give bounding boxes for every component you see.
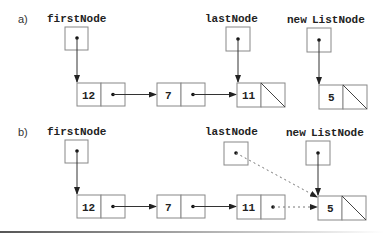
part-b: b) firstNode lastNode new ListNode 12 7: [18, 126, 366, 220]
node-7: 7: [157, 195, 236, 218]
node-11: 11: [237, 195, 317, 219]
part-a: a) firstNode lastNode new ListNode 12 7: [18, 13, 367, 109]
last-node-label: lastNode: [205, 13, 258, 25]
svg-text:11: 11: [242, 202, 256, 214]
new-label-prefix: new: [286, 127, 306, 139]
new-label-prefix: new: [287, 14, 307, 26]
node-7: 7: [157, 83, 236, 106]
node-5: 5: [319, 85, 367, 109]
svg-text:7: 7: [165, 202, 172, 214]
svg-text:5: 5: [328, 92, 335, 104]
node-5: 5: [318, 196, 366, 220]
svg-text:11: 11: [242, 90, 256, 102]
node-12: 12: [77, 83, 156, 106]
part-b-label: b): [18, 126, 28, 138]
node-12: 12: [77, 195, 156, 218]
node-11: 11: [237, 83, 285, 107]
svg-text:5: 5: [327, 203, 334, 215]
first-node-label: firstNode: [47, 13, 107, 25]
new-label-suffix: ListNode: [311, 127, 364, 139]
svg-text:7: 7: [165, 90, 172, 102]
last-node-label: lastNode: [205, 126, 258, 138]
svg-text:12: 12: [82, 90, 95, 102]
linked-list-diagram: a) firstNode lastNode new ListNode 12 7: [0, 0, 384, 234]
part-a-label: a): [18, 13, 28, 25]
first-node-label: firstNode: [47, 126, 107, 138]
bottom-rule: [0, 231, 384, 233]
svg-text:12: 12: [82, 202, 95, 214]
new-label-suffix: ListNode: [312, 14, 365, 26]
